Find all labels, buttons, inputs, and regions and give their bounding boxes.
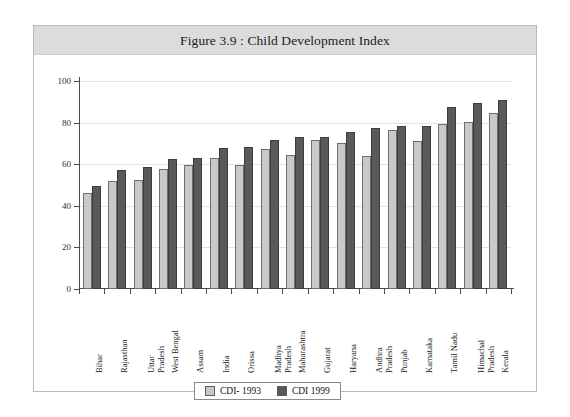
legend-item-0: CDI- 1993: [205, 386, 261, 396]
bar-group: [181, 81, 206, 289]
legend-item-1: CDI 1999: [277, 386, 330, 396]
x-tick-mark: [130, 289, 131, 294]
bar-cdi-1999: [473, 103, 482, 289]
chart-legend: CDI- 1993 CDI 1999: [194, 382, 341, 400]
x-axis-label: UttarPradesh: [147, 346, 166, 373]
bar-cdi-1993: [438, 124, 447, 289]
bar-cdi-1993: [210, 158, 219, 289]
legend-swatch-cdi-1999: [277, 386, 287, 396]
bar-group: [155, 81, 180, 289]
x-tick-mark: [384, 289, 385, 294]
figure-screenshot: Figure 3.9 : Child Development Index 020…: [0, 0, 570, 417]
x-axis-label: India: [222, 356, 232, 373]
bar-group: [460, 81, 485, 289]
bar-group: [359, 81, 384, 289]
bar-cdi-1999: [320, 137, 329, 289]
x-axis-label: Rajasthan: [120, 339, 130, 373]
legend-label-cdi-1999: CDI 1999: [292, 386, 330, 396]
bar-cdi-1993: [134, 180, 143, 289]
bar-cdi-1993: [464, 122, 473, 289]
x-axis-label: Punjab: [400, 349, 410, 373]
bar-cdi-1999: [244, 147, 253, 289]
x-tick-mark: [206, 289, 207, 294]
y-tick-label-0: 0: [67, 284, 72, 294]
plot-wrap: 020406080100 BiharRajasthanUttarPradeshW…: [34, 55, 536, 393]
bar-group: [333, 81, 358, 289]
bar-cdi-1999: [422, 126, 431, 289]
x-tick-mark: [308, 289, 309, 294]
x-tick-mark: [359, 289, 360, 294]
bar-cdi-1993: [388, 130, 397, 289]
bar-group: [435, 81, 460, 289]
x-tick-mark: [511, 289, 512, 294]
bar-cdi-1999: [270, 140, 279, 289]
y-tick-label-80: 80: [62, 118, 71, 128]
bar-cdi-1993: [235, 165, 244, 289]
bar-group: [130, 81, 155, 289]
legend-label-cdi-1993: CDI- 1993: [220, 386, 261, 396]
x-axis-label: Bihar: [95, 354, 105, 373]
x-axis-label: Orissa: [247, 351, 257, 373]
bar-group: [104, 81, 129, 289]
x-tick-mark: [104, 289, 105, 294]
bar-cdi-1993: [108, 181, 117, 289]
x-tick-mark: [257, 289, 258, 294]
bar-cdi-1993: [261, 149, 270, 289]
bar-group: [384, 81, 409, 289]
x-axis-label: Haryana: [349, 344, 359, 373]
x-axis-label: Karnataka: [425, 338, 435, 373]
bar-group: [206, 81, 231, 289]
bar-cdi-1993: [337, 143, 346, 289]
y-tick-label-60: 60: [62, 159, 71, 169]
x-tick-mark: [409, 289, 410, 294]
bar-cdi-1993: [311, 140, 320, 289]
figure-title: Figure 3.9 : Child Development Index: [34, 26, 536, 55]
x-axis-label: West Bengal: [171, 330, 181, 373]
x-axis-label: MadhyaPradesh: [274, 345, 293, 373]
bar-group: [231, 81, 256, 289]
y-tick-label-40: 40: [62, 201, 71, 211]
bar-cdi-1999: [143, 167, 152, 289]
bar-cdi-1999: [447, 107, 456, 289]
x-axis-label: AndhraPradesh: [375, 346, 394, 373]
bar-group: [79, 81, 104, 289]
x-axis-labels: BiharRajasthanUttarPradeshWest BengalAss…: [79, 315, 511, 377]
x-tick-mark: [181, 289, 182, 294]
bar-cdi-1993: [83, 193, 92, 289]
bar-cdi-1993: [362, 156, 371, 289]
bar-cdi-1999: [92, 186, 101, 289]
bar-cdi-1993: [184, 165, 193, 289]
x-tick-mark: [231, 289, 232, 294]
x-axis-label: Kerala: [501, 350, 511, 373]
bar-cdi-1993: [489, 113, 498, 289]
y-tick-label-100: 100: [58, 76, 72, 86]
bar-cdi-1999: [397, 126, 406, 289]
x-tick-mark: [435, 289, 436, 294]
x-tick-mark: [460, 289, 461, 294]
x-axis-label: HimachalPradesh: [477, 340, 496, 373]
x-axis-label: Maharashtra: [298, 331, 308, 373]
bar-group: [308, 81, 333, 289]
bar-cdi-1993: [413, 141, 422, 289]
x-axis-label: Gujarat: [323, 348, 333, 374]
plot-area: 020406080100: [79, 81, 511, 289]
bars-layer: [79, 81, 511, 289]
bar-cdi-1999: [371, 128, 380, 289]
x-tick-mark: [79, 289, 80, 294]
bar-cdi-1999: [219, 148, 228, 289]
figure-frame: Figure 3.9 : Child Development Index 020…: [33, 25, 537, 392]
x-tick-mark: [155, 289, 156, 294]
bar-cdi-1999: [193, 158, 202, 289]
y-tick-label-20: 20: [62, 242, 71, 252]
bar-group: [282, 81, 307, 289]
x-tick-mark: [282, 289, 283, 294]
bar-cdi-1993: [286, 155, 295, 289]
bar-cdi-1999: [168, 159, 177, 289]
x-axis-label: Assam: [196, 350, 206, 373]
bar-cdi-1999: [498, 100, 507, 289]
bar-group: [486, 81, 511, 289]
bar-group: [257, 81, 282, 289]
bar-group: [409, 81, 434, 289]
bar-cdi-1999: [295, 137, 304, 289]
bar-cdi-1999: [346, 132, 355, 289]
